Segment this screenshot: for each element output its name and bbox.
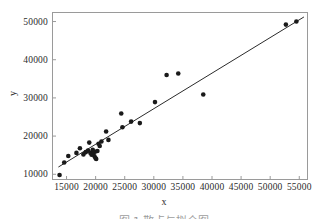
scatter-point xyxy=(164,73,169,78)
scatter-point xyxy=(153,100,158,105)
regression-line xyxy=(58,17,304,167)
scatter-point xyxy=(138,121,143,126)
y-tick-label: 10000 xyxy=(23,169,48,179)
x-tick-label: 25000 xyxy=(112,182,137,192)
scatter-point xyxy=(104,129,109,134)
x-tick-label: 55000 xyxy=(287,182,312,192)
y-axis-tick-labels: 1000020000300004000050000 xyxy=(0,12,48,180)
scatter-plot-figure: 1000020000300004000050000 15000200002500… xyxy=(0,0,328,219)
scatter-point xyxy=(87,140,92,145)
x-tick-label: 50000 xyxy=(258,182,283,192)
scatter-point xyxy=(106,138,111,143)
y-tick-marks xyxy=(52,22,56,175)
scatter-point xyxy=(129,119,134,124)
scatter-point xyxy=(97,144,102,149)
scatter-point xyxy=(57,173,62,178)
x-tick-marks xyxy=(67,176,300,180)
scatter-point xyxy=(176,71,181,76)
y-axis-title: y xyxy=(7,91,18,96)
x-axis-title: x xyxy=(0,196,328,207)
scatter-point xyxy=(201,92,206,97)
scatter-point xyxy=(284,22,289,27)
x-tick-label: 30000 xyxy=(141,182,166,192)
scatter-point xyxy=(294,19,299,24)
scatter-point xyxy=(99,139,104,144)
y-tick-label: 20000 xyxy=(23,131,48,141)
x-axis-tick-labels: 1500020000250003000035000400004500050000… xyxy=(52,182,308,196)
x-tick-label: 20000 xyxy=(83,182,108,192)
figure-caption: 图 1 散点与拟合图 xyxy=(0,211,328,219)
scatter-point xyxy=(119,111,124,116)
scatter-point xyxy=(95,149,100,154)
plot-canvas xyxy=(52,12,308,180)
scatter-point xyxy=(94,157,99,162)
scatter-point xyxy=(66,154,71,159)
scatter-point xyxy=(62,160,67,165)
figure-caption-text: 图 1 散点与拟合图 xyxy=(119,216,210,219)
scatter-point xyxy=(74,151,79,156)
x-tick-label: 15000 xyxy=(54,182,79,192)
scatter-points xyxy=(57,19,298,177)
y-tick-label: 50000 xyxy=(23,17,48,27)
y-tick-label: 30000 xyxy=(23,93,48,103)
y-tick-label: 40000 xyxy=(23,55,48,65)
x-tick-label: 45000 xyxy=(229,182,254,192)
x-tick-label: 40000 xyxy=(200,182,225,192)
scatter-point xyxy=(78,146,83,151)
scatter-point xyxy=(120,125,125,130)
x-tick-label: 35000 xyxy=(171,182,196,192)
